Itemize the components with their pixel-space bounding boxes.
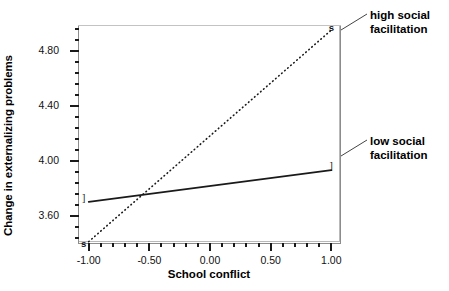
x-tick-major xyxy=(270,243,272,251)
series-line-low-social-facilitation xyxy=(89,170,332,202)
x-tick-label: 0.00 xyxy=(200,254,220,266)
x-tick-minor xyxy=(160,243,162,247)
x-tick-major xyxy=(88,243,90,251)
x-tick-minor xyxy=(282,243,284,247)
x-tick-minor xyxy=(100,243,102,247)
x-tick-label: -1.00 xyxy=(77,254,101,266)
x-tick-minor xyxy=(306,243,308,247)
x-tick-minor xyxy=(185,243,187,247)
y-tick-label: 4.00 xyxy=(39,154,59,166)
data-series-layer xyxy=(79,26,341,243)
y-tick-label: 4.80 xyxy=(39,44,59,56)
y-tick-major: 4.80 xyxy=(70,50,79,52)
y-tick-major: 4.40 xyxy=(70,105,79,107)
x-tick-label: 0.50 xyxy=(260,254,280,266)
y-tick-label: 3.60 xyxy=(39,209,59,221)
x-tick-minor xyxy=(124,243,126,247)
x-tick-label: 1.00 xyxy=(321,254,341,266)
x-tick-minor xyxy=(221,243,223,247)
x-tick-minor xyxy=(245,243,247,247)
x-tick-minor xyxy=(258,243,260,247)
y-tick-label: 4.40 xyxy=(39,99,59,111)
annotation-low-social-facilitation: low social facilitation xyxy=(370,134,428,162)
chart-figure: Change in externalizing problems School … xyxy=(0,0,449,291)
x-tick-major xyxy=(148,243,150,251)
x-tick-minor xyxy=(112,243,114,247)
x-tick-minor xyxy=(197,243,199,247)
x-axis-title: School conflict xyxy=(78,268,340,280)
y-tick-major: 4.00 xyxy=(70,160,79,162)
y-axis-title: Change in externalizing problems xyxy=(0,0,30,291)
x-tick-minor xyxy=(136,243,138,247)
annotation-high-social-facilitation: high social facilitation xyxy=(370,8,430,36)
x-tick-label: -0.50 xyxy=(137,254,161,266)
x-tick-minor xyxy=(294,243,296,247)
y-tick-major: 3.60 xyxy=(70,215,79,217)
x-tick-minor xyxy=(173,243,175,247)
plot-area: 4.804.404.003.60 -1.00-0.500.000.501.00 … xyxy=(78,25,340,242)
x-tick-minor xyxy=(318,243,320,247)
series-line-high-social-facilitation xyxy=(89,30,332,242)
x-tick-major xyxy=(209,243,211,251)
x-tick-major xyxy=(330,243,332,251)
x-tick-minor xyxy=(233,243,235,247)
